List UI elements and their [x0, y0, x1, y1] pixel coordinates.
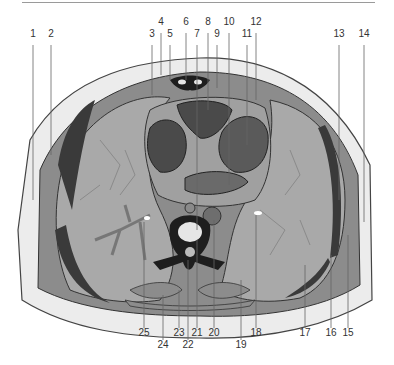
- hilar-node-left: [254, 211, 262, 215]
- hilar-node-right: [144, 216, 150, 220]
- label-4: 4: [158, 17, 164, 27]
- label-5: 5: [167, 29, 173, 39]
- label-21: 21: [191, 328, 202, 338]
- label-22: 22: [182, 340, 193, 350]
- sternum-marrow-right: [194, 80, 202, 85]
- label-10: 10: [223, 17, 234, 27]
- label-2: 2: [48, 29, 54, 39]
- vertebral-body: [178, 222, 202, 242]
- label-20: 20: [208, 328, 219, 338]
- label-12: 12: [250, 17, 261, 27]
- label-3: 3: [149, 29, 155, 39]
- label-13: 13: [333, 29, 344, 39]
- label-19: 19: [235, 340, 246, 350]
- right-atrium: [147, 120, 186, 172]
- thorax-cross-section: [0, 0, 394, 365]
- label-6: 6: [183, 17, 189, 27]
- esophagus: [185, 203, 195, 213]
- label-24: 24: [157, 340, 168, 350]
- label-25: 25: [138, 328, 149, 338]
- label-11: 11: [242, 29, 252, 39]
- label-9: 9: [214, 29, 220, 39]
- label-18: 18: [250, 328, 261, 338]
- label-23: 23: [173, 328, 184, 338]
- label-15: 15: [342, 328, 353, 338]
- sternum-marrow-left: [178, 80, 186, 85]
- label-14: 14: [358, 29, 369, 39]
- label-17: 17: [299, 328, 310, 338]
- label-1: 1: [30, 29, 36, 39]
- label-7: 7: [194, 29, 200, 39]
- label-16: 16: [325, 328, 336, 338]
- spinal-canal: [185, 247, 195, 257]
- label-8: 8: [205, 17, 211, 27]
